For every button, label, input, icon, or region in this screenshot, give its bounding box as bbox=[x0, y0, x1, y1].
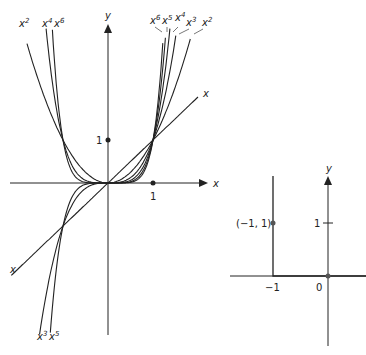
tick-y-1: 1 bbox=[96, 135, 102, 146]
point-origin-right bbox=[326, 274, 331, 279]
point-1-0 bbox=[151, 181, 156, 186]
label-x6-left: x6 bbox=[53, 17, 65, 29]
label-x4-right: x4 bbox=[174, 11, 185, 23]
label-x5-right: x5 bbox=[161, 14, 173, 26]
label-x6-right: x6 bbox=[149, 14, 161, 26]
power-curves bbox=[11, 29, 198, 335]
right-graph: y 1 −1 0 (−1, 1) bbox=[230, 163, 366, 346]
label-x-line-bottom: x bbox=[9, 264, 16, 275]
label-x-line-top: x bbox=[202, 88, 209, 99]
power-functions-diagram: x y 1 1 x2 x4 x6 x6 x5 x4 x3 x2 x x x3 x… bbox=[0, 0, 366, 355]
label-x5-bottom: x5 bbox=[48, 330, 60, 342]
label-x3-right: x3 bbox=[185, 16, 196, 28]
y-axis-label-right: y bbox=[325, 163, 333, 174]
label-x2-right: x2 bbox=[201, 16, 213, 28]
y-axis-arrow-icon-right bbox=[324, 176, 332, 185]
point-label-neg1-1: (−1, 1) bbox=[236, 218, 271, 229]
y-axis-label: y bbox=[104, 10, 112, 21]
x-axis-label: x bbox=[212, 178, 219, 189]
tick-neg1-label: −1 bbox=[265, 282, 280, 293]
label-x2-left: x2 bbox=[18, 17, 30, 29]
curve-x2 bbox=[27, 39, 190, 183]
y-axis-arrow-icon bbox=[104, 24, 112, 33]
label-x3-bottom: x3 bbox=[36, 330, 47, 342]
tick-x-1: 1 bbox=[150, 191, 156, 202]
tick-y-1-label-right: 1 bbox=[314, 218, 320, 229]
origin-label-right: 0 bbox=[316, 282, 322, 293]
curve-x bbox=[11, 97, 198, 275]
x-axis-arrow-icon bbox=[199, 179, 208, 187]
point-0-1 bbox=[106, 138, 111, 143]
left-graph: x y 1 1 x2 x4 x6 x6 x5 x4 x3 x2 x x x3 x… bbox=[9, 10, 219, 342]
label-x4-left: x4 bbox=[41, 17, 52, 29]
label-pointer-arrows bbox=[155, 27, 203, 34]
